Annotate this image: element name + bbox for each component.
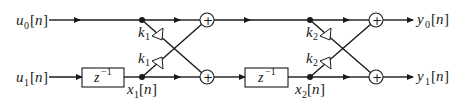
coef-k1-top: k 1	[138, 24, 150, 42]
svg-text:y: y	[415, 68, 424, 84]
svg-text:k: k	[306, 24, 313, 40]
svg-text:]: ]	[444, 11, 449, 27]
svg-text:n: n	[144, 81, 152, 97]
svg-text:]: ]	[43, 69, 48, 85]
input-u1-label: u 1 [ n ]	[16, 69, 48, 88]
svg-text:n: n	[436, 11, 444, 27]
cross-s2-down	[310, 20, 371, 73]
output-y1-label: y 1 [ n ]	[415, 68, 449, 87]
lattice-diagram: u 0 [ n ] u 1 [ n ] z −1 k 1 k 1 + +	[0, 0, 465, 103]
coef-k2-top: k 2	[306, 24, 318, 42]
svg-text:]: ]	[152, 81, 157, 97]
adder-s1-bottom-sign: +	[203, 71, 213, 85]
svg-text:]: ]	[43, 12, 48, 28]
svg-text:x: x	[294, 81, 302, 97]
svg-text:]: ]	[320, 81, 325, 97]
coef-k1-bottom: k 1	[138, 50, 150, 68]
cross-s2-up	[310, 24, 371, 77]
svg-text:k: k	[138, 24, 145, 40]
svg-text:0: 0	[24, 20, 29, 31]
svg-text:2: 2	[313, 57, 318, 68]
adder-s1-top-sign: +	[203, 14, 213, 28]
input-u0-label: u 0 [ n ]	[16, 12, 48, 31]
svg-text:y: y	[415, 11, 424, 27]
adder-s2-bottom-sign: +	[372, 71, 382, 85]
svg-text:u: u	[16, 12, 24, 28]
svg-text:u: u	[16, 69, 24, 85]
adder-s2-top-sign: +	[372, 14, 382, 28]
svg-text:n: n	[436, 68, 444, 84]
svg-text:k: k	[138, 50, 145, 66]
svg-text:n: n	[35, 69, 43, 85]
svg-text:n: n	[312, 81, 320, 97]
svg-text:n: n	[35, 12, 43, 28]
svg-text:1: 1	[145, 31, 150, 42]
svg-text:1: 1	[145, 57, 150, 68]
cross-s1-down	[142, 20, 202, 73]
cross-s1-up	[142, 24, 202, 77]
svg-text:1: 1	[24, 77, 29, 88]
svg-text:2: 2	[313, 31, 318, 42]
state-x2-label: x 2 [ n ]	[294, 81, 325, 100]
svg-text:0: 0	[425, 19, 430, 30]
delay-1-base: z	[93, 70, 100, 85]
svg-text:k: k	[306, 50, 313, 66]
delay-2-base: z	[257, 70, 264, 85]
output-y0-label: y 0 [ n ]	[415, 11, 449, 30]
delay-2-exp: −1	[265, 66, 276, 77]
state-x1-label: x 1 [ n ]	[126, 81, 157, 100]
coef-k2-bottom: k 2	[306, 50, 318, 68]
delay-1-exp: −1	[101, 66, 112, 77]
svg-text:x: x	[126, 81, 134, 97]
svg-text:1: 1	[425, 76, 430, 87]
svg-text:]: ]	[444, 68, 449, 84]
